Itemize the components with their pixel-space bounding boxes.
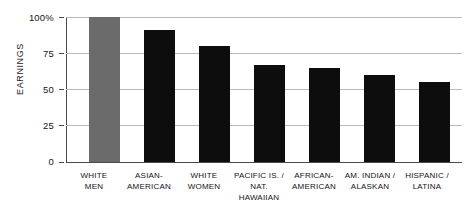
y-axis-title: EARNINGS: [15, 19, 25, 119]
bar-white-women: [199, 46, 230, 162]
x-label-line1: HISPANIC /: [405, 171, 449, 180]
y-tick-mark-50: [59, 89, 64, 90]
bar-hispanic-latina: [419, 82, 450, 162]
plot-area: [66, 17, 462, 162]
x-label-line2: ALASKAN: [340, 181, 400, 192]
x-label-line1: WHITE: [81, 171, 108, 180]
x-label-line2: NAT. HAWAIIAN: [229, 181, 289, 203]
x-category-label-african-american: AFRICAN- AMERICAN: [286, 170, 342, 192]
y-tick-mark-100: [59, 17, 64, 18]
x-label-line1: AFRICAN-: [294, 171, 333, 180]
x-label-line2: MEN: [66, 181, 122, 192]
x-category-label-asian-american: ASIAN- AMERICAN: [121, 170, 177, 192]
bar-white-men: [89, 17, 120, 162]
bar-african-american: [309, 68, 340, 162]
gridline-75: [66, 53, 462, 54]
y-tick-mark-0: [59, 162, 64, 163]
bar-asian-american: [144, 30, 175, 162]
x-label-line2: LATINA: [398, 181, 456, 192]
x-label-line1: ASIAN-: [135, 171, 163, 180]
y-tick-mark-75: [59, 53, 64, 54]
bar-american-indian-alaskan: [364, 75, 395, 162]
x-category-label-white-women: WHITE WOMEN: [176, 170, 232, 192]
x-label-line2: AMERICAN: [121, 181, 177, 192]
x-label-line2: AMERICAN: [286, 181, 342, 192]
bar-pacific-islander-native-hawaiian: [254, 65, 285, 162]
gridline-100: [66, 17, 462, 18]
x-label-line2: WOMEN: [176, 181, 232, 192]
y-tick-label-100: 100%: [0, 12, 54, 23]
y-tick-label-25: 25: [0, 120, 54, 131]
x-label-line1: WHITE: [191, 171, 218, 180]
x-category-label-pacific-islander: PACIFIC IS. / NAT. HAWAIIAN: [229, 170, 289, 203]
y-tick-label-75: 75: [0, 48, 54, 59]
x-category-label-hispanic-latina: HISPANIC / LATINA: [398, 170, 456, 192]
x-label-line1: PACIFIC IS. /: [234, 171, 284, 180]
x-label-line1: AM. INDIAN /: [345, 171, 395, 180]
x-category-label-american-indian-alaskan: AM. INDIAN / ALASKAN: [340, 170, 400, 192]
axis-baseline: [66, 162, 462, 163]
earnings-bar-chart: EARNINGS 100% 75 50 25 0 WHITE MEN ASIAN…: [0, 0, 471, 205]
y-tick-label-50: 50: [0, 84, 54, 95]
y-tick-label-0: 0: [0, 156, 54, 167]
x-category-label-white-men: WHITE MEN: [66, 170, 122, 192]
y-tick-mark-25: [59, 125, 64, 126]
